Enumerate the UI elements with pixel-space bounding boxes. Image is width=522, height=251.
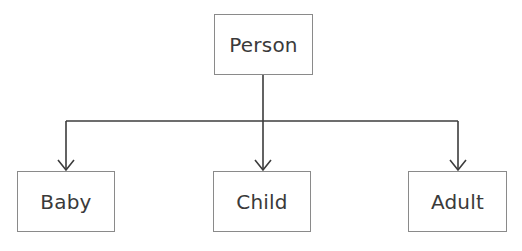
node-adult-label: Adult: [431, 190, 484, 214]
node-child-label: Child: [236, 190, 287, 214]
node-child: Child: [213, 171, 311, 232]
node-adult: Adult: [408, 171, 507, 232]
node-baby-label: Baby: [40, 190, 91, 214]
node-baby: Baby: [17, 171, 115, 232]
node-person: Person: [214, 14, 313, 75]
inheritance-diagram: Person Baby Child Adult: [0, 0, 522, 251]
node-person-label: Person: [229, 33, 297, 57]
